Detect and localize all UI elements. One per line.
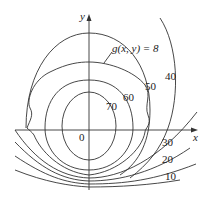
contour-extra (15, 170, 180, 187)
contour-diagram: y x 0 g(x, y) = 8 40 50 60 70 30 20 10 (0, 0, 205, 198)
contour-50 (26, 33, 150, 175)
constraint-label: g(x, y) = 8 (112, 42, 159, 55)
level-30-label: 30 (162, 136, 174, 148)
level-50-label: 50 (145, 80, 157, 92)
y-axis-label: y (79, 10, 85, 22)
x-axis-label: x (192, 131, 198, 143)
constraint-leader (104, 52, 112, 63)
level-10-label: 10 (165, 170, 177, 182)
level-70-label: 70 (106, 100, 118, 112)
level-40-label: 40 (165, 70, 177, 82)
y-axis-arrow-icon (87, 14, 92, 21)
level-60-label: 60 (123, 91, 135, 103)
level-20-label: 20 (162, 153, 174, 165)
contour-plot: y x 0 g(x, y) = 8 40 50 60 70 30 20 10 (0, 0, 205, 198)
origin-label: 0 (79, 131, 85, 143)
